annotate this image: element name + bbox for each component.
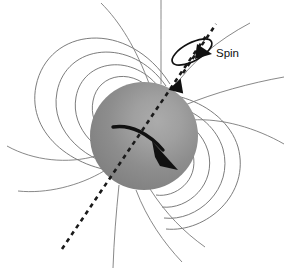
pulsar-diagram: Spin <box>0 0 285 269</box>
spin-label: Spin <box>216 47 239 59</box>
field-line-open <box>185 77 284 105</box>
field-line-open <box>136 190 182 262</box>
field-line-open <box>113 185 119 268</box>
neutron-star-sphere <box>90 82 198 190</box>
diagram-canvas: Spin <box>0 0 285 269</box>
field-line-open <box>18 171 104 192</box>
field-line-open <box>192 120 284 144</box>
field-line-open <box>7 146 96 160</box>
spin-indicator <box>168 34 215 71</box>
spin-direction-arrowhead <box>195 44 212 59</box>
